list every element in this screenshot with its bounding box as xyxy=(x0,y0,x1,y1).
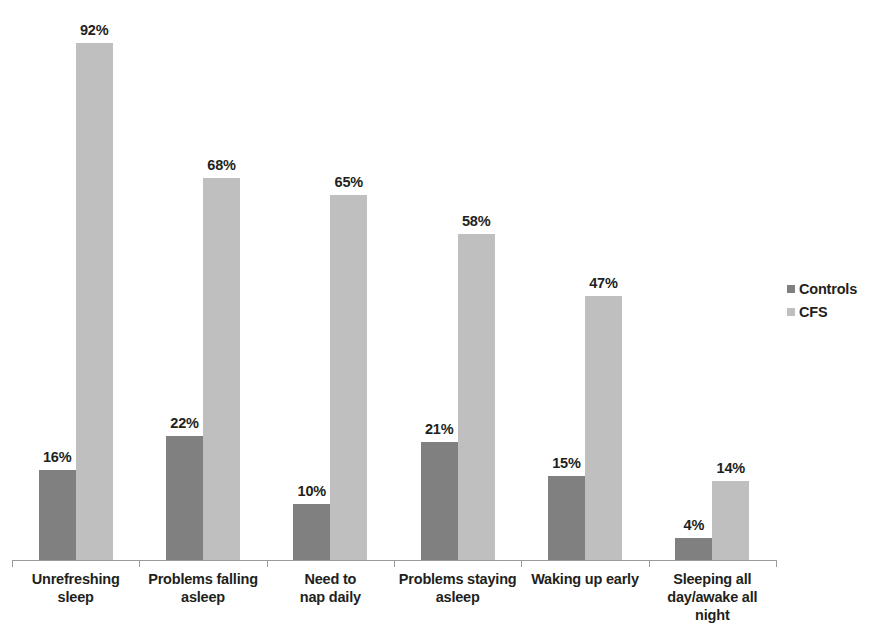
bar-group: 16%92% xyxy=(12,8,139,560)
x-axis-category-label: Waking up early xyxy=(521,570,648,624)
bar-slot: 14% xyxy=(712,8,749,560)
bar-slot: 65% xyxy=(330,8,367,560)
bar-slot: 68% xyxy=(203,8,240,560)
bar-value-label: 47% xyxy=(589,276,617,291)
bar-controls xyxy=(166,436,203,560)
category-label-line: sleep xyxy=(14,588,137,606)
legend-swatch-icon xyxy=(787,308,795,316)
bar-slot: 22% xyxy=(166,8,203,560)
category-label-line: nap daily xyxy=(269,588,392,606)
bar-value-label: 14% xyxy=(717,461,745,476)
x-axis-category-label: Problems fallingasleep xyxy=(139,570,266,624)
category-label-line: Problems staying xyxy=(396,570,519,588)
bar-value-label: 68% xyxy=(207,158,235,173)
bar-chart: 16%92%22%68%10%65%21%58%15%47%4%14% Unre… xyxy=(0,0,872,628)
bar-group: 4%14% xyxy=(649,8,776,560)
category-label-line: Waking up early xyxy=(523,570,646,588)
category-label-line: Problems falling xyxy=(141,570,264,588)
category-label-line: Sleeping all xyxy=(651,570,774,588)
category-label-line: day/awake all xyxy=(651,588,774,606)
bar-value-label: 10% xyxy=(298,484,326,499)
x-axis-category-label: Sleeping allday/awake allnight xyxy=(649,570,776,624)
bar-value-label: 92% xyxy=(80,23,108,38)
x-axis-tick xyxy=(139,560,140,567)
category-label-line: Need to xyxy=(269,570,392,588)
x-axis-category-label: Problems stayingasleep xyxy=(394,570,521,624)
bar-cfs xyxy=(330,195,367,560)
bar-slot: 10% xyxy=(293,8,330,560)
bar-group: 22%68% xyxy=(139,8,266,560)
legend-swatch-icon xyxy=(787,285,795,293)
x-axis-category-labels: UnrefreshingsleepProblems fallingasleepN… xyxy=(12,570,776,624)
bar-controls xyxy=(548,476,585,560)
bar-controls xyxy=(675,538,712,560)
x-axis-tick xyxy=(521,560,522,567)
plot-area: 16%92%22%68%10%65%21%58%15%47%4%14% xyxy=(12,8,776,560)
x-axis-tick xyxy=(394,560,395,567)
bar-slot: 16% xyxy=(39,8,76,560)
bar-cfs xyxy=(585,296,622,560)
bar-groups: 16%92%22%68%10%65%21%58%15%47%4%14% xyxy=(12,8,776,560)
bar-slot: 21% xyxy=(421,8,458,560)
legend-label: CFS xyxy=(799,304,827,320)
category-label-line: night xyxy=(651,606,774,624)
x-axis-tick xyxy=(12,560,13,567)
bar-group: 21%58% xyxy=(394,8,521,560)
bar-value-label: 16% xyxy=(43,450,71,465)
chart-legend: ControlsCFS xyxy=(787,281,857,327)
bar-value-label: 15% xyxy=(552,456,580,471)
x-axis-category-label: Need tonap daily xyxy=(267,570,394,624)
bar-cfs xyxy=(76,43,113,560)
bar-cfs xyxy=(458,234,495,560)
bar-controls xyxy=(421,442,458,560)
category-label-line: Unrefreshing xyxy=(14,570,137,588)
bar-group: 15%47% xyxy=(521,8,648,560)
bar-value-label: 65% xyxy=(335,175,363,190)
x-axis-tick xyxy=(649,560,650,567)
bar-cfs xyxy=(203,178,240,560)
bar-slot: 58% xyxy=(458,8,495,560)
legend-item[interactable]: CFS xyxy=(787,304,857,320)
bar-slot: 15% xyxy=(548,8,585,560)
bar-value-label: 21% xyxy=(425,422,453,437)
x-axis-category-label: Unrefreshingsleep xyxy=(12,570,139,624)
bar-controls xyxy=(293,504,330,560)
bar-slot: 4% xyxy=(675,8,712,560)
bar-slot: 92% xyxy=(76,8,113,560)
bar-controls xyxy=(39,470,76,560)
legend-item[interactable]: Controls xyxy=(787,281,857,297)
bar-cfs xyxy=(712,481,749,560)
bar-value-label: 22% xyxy=(170,416,198,431)
bar-slot: 47% xyxy=(585,8,622,560)
category-label-line: asleep xyxy=(396,588,519,606)
bar-value-label: 4% xyxy=(684,518,705,533)
x-axis-tick xyxy=(776,560,777,567)
bar-group: 10%65% xyxy=(267,8,394,560)
legend-label: Controls xyxy=(799,281,857,297)
category-label-line: asleep xyxy=(141,588,264,606)
bar-value-label: 58% xyxy=(462,214,490,229)
x-axis-tick xyxy=(267,560,268,567)
